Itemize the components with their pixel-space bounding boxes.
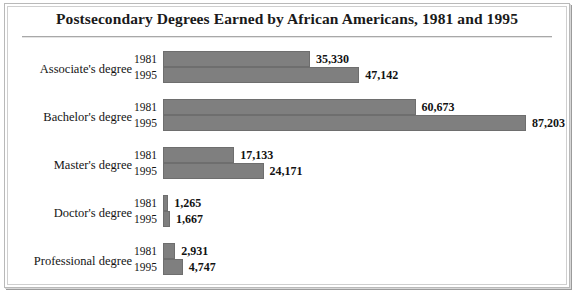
page-title: Postsecondary Degrees Earned by African …	[8, 10, 566, 28]
year-label: 1995	[103, 69, 157, 81]
chart-inner-frame: Postsecondary Degrees Earned by African …	[7, 6, 567, 285]
bar-row: 199587,203	[8, 115, 566, 131]
bar	[163, 115, 526, 131]
bar-value-label: 47,142	[365, 68, 398, 83]
bar-row: 199547,142	[8, 67, 566, 83]
year-label: 1995	[103, 213, 157, 225]
bar	[163, 67, 359, 83]
bar	[163, 195, 168, 211]
year-label: 1995	[103, 117, 157, 129]
year-label: 1981	[103, 53, 157, 65]
bar	[163, 147, 234, 163]
year-label: 1981	[103, 149, 157, 161]
chart-figure-frame: Postsecondary Degrees Earned by African …	[4, 3, 570, 288]
bar	[163, 51, 310, 67]
bar-value-label: 17,133	[240, 148, 273, 163]
bar-group: Doctor's degree19811,26519951,667	[8, 194, 566, 232]
bar-row: 19954,747	[8, 259, 566, 275]
bar	[163, 99, 416, 115]
bar-group: Bachelor's degree198160,673199587,203	[8, 98, 566, 136]
year-label: 1981	[103, 101, 157, 113]
year-label: 1995	[103, 261, 157, 273]
bar	[163, 163, 264, 179]
chart-title-bar: Postsecondary Degrees Earned by African …	[8, 7, 566, 37]
bar-row: 19811,265	[8, 195, 566, 211]
bar-row: 198160,673	[8, 99, 566, 115]
bar-value-label: 1,265	[174, 196, 201, 211]
bar-value-label: 2,931	[181, 244, 208, 259]
bar-row: 198117,133	[8, 147, 566, 163]
bar-value-label: 1,667	[176, 212, 203, 227]
bar-row: 19812,931	[8, 243, 566, 259]
bar-group: Professional degree19812,93119954,747	[8, 242, 566, 280]
bar-value-label: 60,673	[422, 100, 455, 115]
chart-plot-area: Associate's degree198135,330199547,142Ba…	[8, 38, 566, 284]
year-label: 1995	[103, 165, 157, 177]
bar	[163, 259, 183, 275]
bar	[163, 211, 170, 227]
bar-value-label: 87,203	[532, 116, 565, 131]
bar-group: Associate's degree198135,330199547,142	[8, 50, 566, 88]
bar-value-label: 4,747	[189, 260, 216, 275]
year-label: 1981	[103, 245, 157, 257]
year-label: 1981	[103, 197, 157, 209]
bar	[163, 243, 175, 259]
bar-value-label: 35,330	[316, 52, 349, 67]
bar-row: 198135,330	[8, 51, 566, 67]
bar-row: 19951,667	[8, 211, 566, 227]
bar-group: Master's degree198117,133199524,171	[8, 146, 566, 184]
bar-value-label: 24,171	[270, 164, 303, 179]
bar-row: 199524,171	[8, 163, 566, 179]
